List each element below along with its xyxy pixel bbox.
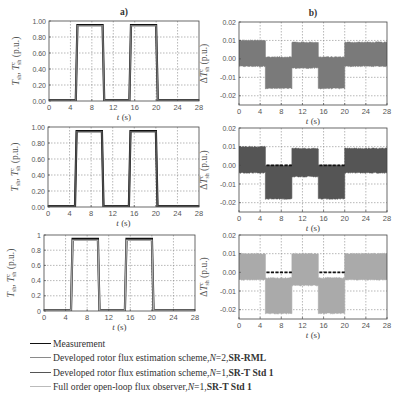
y-tick-label: -0.01: [220, 74, 236, 81]
x-tick-label: 8: [279, 107, 283, 116]
x-tick-label: 20: [341, 321, 349, 330]
x-axis-label: t (s): [116, 218, 130, 228]
legend-swatch: [30, 343, 51, 344]
x-tick-label: 24: [362, 214, 370, 223]
legend-item-n1-sr-t-std1: Developed rotor flux estimation scheme, …: [30, 365, 274, 380]
y-tick-label: 0.00: [32, 98, 46, 105]
y-tick-label: 0: [37, 308, 41, 315]
x-tick-label: 4: [67, 209, 71, 218]
y-tick-label: 1.00: [32, 18, 46, 25]
legend-label: Measurement: [53, 338, 105, 349]
x-tick-label: 0: [46, 209, 50, 218]
y-tick-label: 0.00: [222, 162, 236, 169]
x-axis-label: t (s): [306, 116, 320, 126]
x-tick-label: 20: [148, 313, 156, 322]
x-tick-label: 20: [341, 107, 349, 116]
legend-label: Developed rotor flux estimation scheme,: [53, 367, 209, 378]
x-tick-label: 28: [191, 313, 199, 322]
legend: Measurement Developed rotor flux estimat…: [30, 336, 274, 394]
legend-eq: =2,: [216, 352, 229, 363]
y-axis-label: Tsh, Tcsh (p.u.): [9, 143, 21, 192]
y-tick-label: 0.20: [31, 188, 45, 195]
x-tick-label: 16: [131, 103, 139, 112]
y-tick-label: 0.01: [222, 143, 236, 150]
y-tick-label: 0.6: [31, 262, 41, 269]
chart-panel-b1: 0481216202428-0.02-0.010.000.010.02t (s)…: [198, 8, 391, 126]
panel-title: b): [309, 8, 317, 19]
y-tick-label: 0.40: [32, 66, 46, 73]
x-axis-label: t (s): [112, 322, 126, 332]
x-tick-label: 28: [383, 321, 391, 330]
y-tick-label: -0.02: [220, 199, 236, 206]
x-tick-label: 20: [341, 214, 349, 223]
chart-panel-a1: 04812162024280.000.200.400.600.801.00t (…: [10, 7, 203, 122]
x-tick-label: 8: [279, 214, 283, 223]
x-tick-label: 4: [258, 214, 262, 223]
y-tick-label: 0.00: [31, 204, 45, 211]
legend-swatch: [30, 357, 51, 358]
legend-item-measurement: Measurement: [30, 336, 274, 351]
x-tick-label: 16: [319, 321, 327, 330]
x-tick-label: 28: [195, 209, 203, 218]
x-tick-label: 16: [126, 313, 134, 322]
x-tick-label: 4: [68, 103, 72, 112]
chart-panel-a3: 048121620242800.20.40.60.81t (s)Tsh, Tcs…: [5, 232, 199, 333]
x-axis-label: t (s): [117, 112, 131, 122]
y-tick-label: 0.8: [31, 247, 41, 254]
x-tick-label: 0: [237, 214, 241, 223]
x-tick-label: 4: [258, 107, 262, 116]
y-tick-label: 0.00: [222, 55, 236, 62]
y-tick-label: -0.02: [220, 92, 236, 99]
y-tick-label: 0.02: [222, 232, 236, 239]
y-tick-label: 0.00: [222, 269, 236, 276]
x-tick-label: 24: [173, 103, 181, 112]
x-tick-label: 12: [109, 209, 117, 218]
x-tick-label: 12: [105, 313, 113, 322]
legend-item-open-loop-observer: Full order open-loop flux observer, N=1,…: [30, 380, 274, 395]
y-tick-label: 0.2: [31, 292, 41, 299]
x-tick-label: 8: [90, 103, 94, 112]
legend-swatch: [30, 386, 51, 387]
y-axis-label: ΔTcsh (p.u.): [198, 257, 210, 296]
x-tick-label: 8: [89, 209, 93, 218]
chart-panel-a2: 04812162024280.000.200.400.600.801.00t (…: [9, 124, 203, 229]
x-tick-label: 12: [298, 321, 306, 330]
y-tick-label: 1.00: [31, 124, 45, 131]
legend-method: SR-T Std 1: [207, 381, 252, 392]
x-axis-label: t (s): [306, 223, 320, 233]
chart-panel-b2: 0481216202428-0.02-0.010.000.010.02t (s)…: [198, 125, 391, 234]
x-axis-label: t (s): [306, 330, 320, 340]
x-tick-label: 12: [109, 103, 117, 112]
y-tick-label: 0.60: [32, 50, 46, 57]
y-tick-label: 0.80: [32, 34, 46, 41]
legend-item-n2-sr-rml: Developed rotor flux estimation scheme, …: [30, 351, 274, 366]
legend-method: SR-T Std 1: [228, 367, 273, 378]
x-tick-label: 16: [319, 214, 327, 223]
y-tick-label: 0.02: [222, 19, 236, 26]
legend-label: Developed rotor flux estimation scheme,: [53, 352, 209, 363]
panel-title: a): [120, 7, 128, 18]
chart-panel-b3: 0481216202428-0.02-0.010.000.010.02t (s)…: [198, 232, 391, 341]
y-tick-label: 0.02: [222, 125, 236, 132]
y-tick-label: 0.01: [222, 250, 236, 257]
y-axis-label: ΔTcsh (p.u.): [198, 44, 210, 83]
x-tick-label: 24: [173, 209, 181, 218]
legend-label: Full order open-loop flux observer,: [53, 381, 188, 392]
x-tick-label: 4: [258, 321, 262, 330]
x-tick-label: 28: [195, 103, 203, 112]
y-tick-label: 0.80: [31, 140, 45, 147]
x-tick-label: 24: [169, 313, 177, 322]
y-tick-label: 0.20: [32, 82, 46, 89]
x-tick-label: 24: [362, 321, 370, 330]
y-axis-label: ΔTcsh (p.u.): [198, 150, 210, 189]
x-tick-label: 12: [298, 107, 306, 116]
y-tick-label: 0.60: [31, 156, 45, 163]
x-tick-label: 20: [152, 103, 160, 112]
x-tick-label: 16: [319, 107, 327, 116]
y-axis-label: Tsh, Tcsh (p.u.): [10, 37, 22, 86]
x-tick-label: 4: [63, 313, 67, 322]
x-tick-label: 24: [362, 107, 370, 116]
x-tick-label: 0: [42, 313, 46, 322]
legend-swatch: [30, 372, 51, 373]
x-tick-label: 20: [152, 209, 160, 218]
